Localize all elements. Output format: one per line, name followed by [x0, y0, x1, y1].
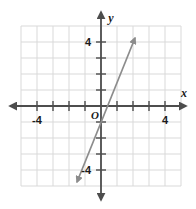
coordinate-plane-figure: -4 4 4 -4 O x y	[0, 0, 196, 209]
y-tick-label-4: 4	[85, 36, 92, 48]
x-tick-label-4: 4	[162, 114, 169, 126]
y-axis-label: y	[106, 11, 114, 25]
x-axis-label: x	[180, 86, 187, 100]
graph-canvas: -4 4 4 -4 O x y	[0, 0, 196, 209]
x-tick-label-neg4: -4	[32, 114, 43, 126]
y-tick-label-neg4: -4	[81, 164, 92, 176]
origin-label: O	[91, 109, 99, 121]
